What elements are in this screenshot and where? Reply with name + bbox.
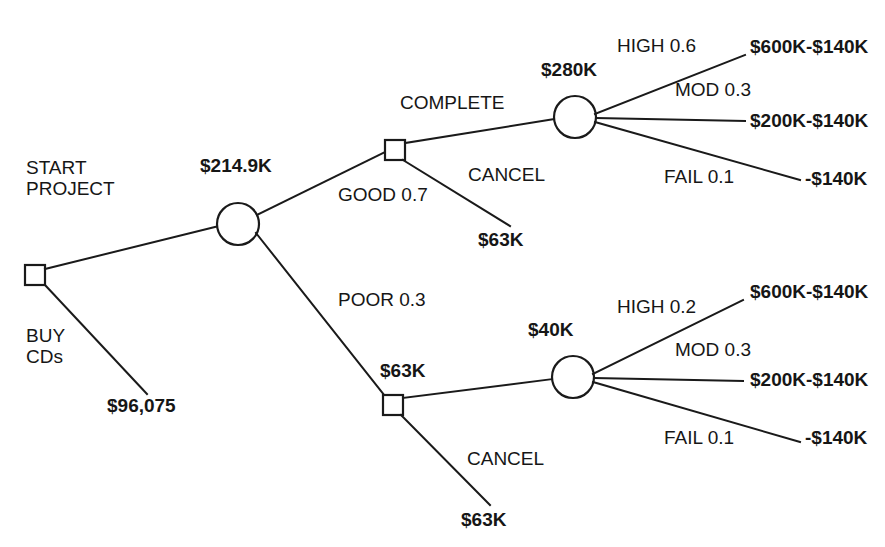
- label-cancel-upper: CANCEL: [468, 164, 545, 185]
- label-cancel-lower-value: $63K: [461, 509, 506, 530]
- decision-tree-diagram: START PROJECT BUY CDs $96,075 $214.9K GO…: [0, 0, 885, 547]
- branch-complete-upper[interactable]: [405, 119, 555, 143]
- label-root-ev: $214.9K: [200, 155, 272, 176]
- label-lower-mod-payoff: $200K-$140K: [750, 369, 868, 390]
- label-lower-high-payoff: $600K-$140K: [750, 281, 868, 302]
- label-upper-mod: MOD 0.3: [675, 79, 751, 100]
- branch-upper-mod[interactable]: [596, 118, 745, 121]
- label-upper-node-ev: $280K: [541, 59, 597, 80]
- branch-start-project[interactable]: [45, 226, 219, 269]
- label-upper-mod-payoff: $200K-$140K: [750, 110, 868, 131]
- label-upper-fail-payoff: -$140K: [805, 168, 867, 189]
- node-lower-chance[interactable]: [552, 356, 594, 398]
- label-cancel-upper-value: $63K: [478, 229, 523, 250]
- label-start-project-line2: PROJECT: [26, 178, 115, 199]
- branch-poor[interactable]: [256, 233, 385, 396]
- label-upper-fail: FAIL 0.1: [664, 166, 734, 187]
- label-upper-high: HIGH 0.6: [617, 35, 696, 56]
- node-upper-decision[interactable]: [385, 140, 405, 160]
- label-lower-fail-payoff: -$140K: [805, 427, 867, 448]
- tree-graphics: [0, 0, 885, 547]
- branch-complete-lower[interactable]: [403, 379, 553, 398]
- branch-lower-mod[interactable]: [594, 378, 743, 381]
- label-complete-upper: COMPLETE: [400, 92, 505, 113]
- label-upper-high-payoff: $600K-$140K: [750, 36, 868, 57]
- label-lower-fail: FAIL 0.1: [664, 427, 734, 448]
- label-lower-mod: MOD 0.3: [675, 339, 751, 360]
- label-cancel-lower: CANCEL: [467, 448, 544, 469]
- node-upper-chance[interactable]: [554, 96, 596, 138]
- label-lower-node-ev: $40K: [528, 319, 573, 340]
- label-buy-cds-line1: BUY: [26, 325, 65, 346]
- label-lower-decision-ev: $63K: [380, 360, 425, 381]
- node-lower-decision[interactable]: [383, 395, 403, 415]
- label-buy-cds-value: $96,075: [107, 395, 176, 416]
- label-buy-cds-line2: CDs: [26, 346, 63, 367]
- node-main-chance[interactable]: [217, 203, 259, 245]
- node-root-decision[interactable]: [25, 265, 45, 285]
- label-lower-high: HIGH 0.2: [617, 296, 696, 317]
- label-good-branch: GOOD 0.7: [338, 184, 428, 205]
- label-poor-branch: POOR 0.3: [338, 289, 426, 310]
- label-start-project-line1: START: [26, 157, 87, 178]
